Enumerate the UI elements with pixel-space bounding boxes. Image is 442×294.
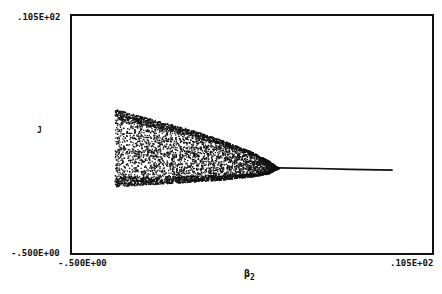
x-axis-label: β2 — [244, 268, 255, 282]
y-max-tick-label: .105E+02 — [17, 12, 60, 22]
chaotic-band — [115, 109, 280, 187]
y-axis-label: J — [37, 126, 42, 135]
bifurcation-plot — [0, 0, 442, 294]
x-axis-label-subscript: 2 — [250, 273, 255, 282]
y-min-tick-label: -.500E+00 — [11, 248, 60, 258]
fixed-point-branch — [278, 168, 393, 170]
plot-frame — [71, 15, 433, 254]
x-min-tick-label: -.500E+00 — [58, 258, 107, 268]
x-max-tick-label: .105E+02 — [390, 258, 433, 268]
